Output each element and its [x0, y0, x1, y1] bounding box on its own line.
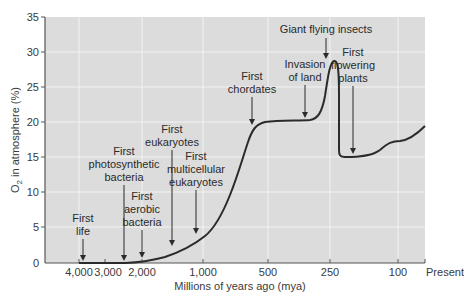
y-axis-title: O2 in atmosphere (%)	[9, 87, 24, 193]
svg-text:10: 10	[27, 186, 39, 198]
svg-text:2,000: 2,000	[128, 266, 156, 278]
oxygen-history-chart: 35 30 25 20 15 10 5 0 4,000 3,000 2,000 …	[0, 0, 464, 305]
svg-text:First: First	[241, 70, 262, 82]
svg-text:multicellular: multicellular	[167, 163, 225, 175]
svg-text:chordates: chordates	[228, 83, 277, 95]
svg-text:eukaryotes: eukaryotes	[169, 176, 223, 188]
svg-text:4,000: 4,000	[65, 266, 93, 278]
svg-text:of land: of land	[288, 71, 321, 83]
svg-text:100: 100	[389, 266, 407, 278]
svg-text:1,000: 1,000	[189, 266, 217, 278]
svg-text:flowering: flowering	[331, 59, 375, 71]
svg-text:0: 0	[33, 257, 39, 269]
svg-text:25: 25	[27, 81, 39, 93]
svg-text:bacteria: bacteria	[122, 216, 162, 228]
svg-text:First: First	[342, 46, 363, 58]
svg-text:First: First	[72, 212, 93, 224]
svg-text:5: 5	[33, 221, 39, 233]
x-tick-labels: 4,000 3,000 2,000 1,000 500 250 100 Pres…	[65, 266, 464, 278]
svg-text:20: 20	[27, 116, 39, 128]
svg-text:35: 35	[27, 11, 39, 23]
svg-text:First: First	[185, 150, 206, 162]
svg-text:bacteria: bacteria	[104, 171, 144, 183]
svg-text:3,000: 3,000	[94, 266, 122, 278]
svg-text:First: First	[161, 123, 182, 135]
svg-text:aerobic: aerobic	[124, 203, 161, 215]
svg-text:Present: Present	[426, 266, 464, 278]
svg-text:250: 250	[321, 266, 339, 278]
svg-text:photosynthetic: photosynthetic	[89, 158, 160, 170]
plot-area	[45, 17, 425, 263]
svg-text:Giant flying insects: Giant flying insects	[280, 23, 373, 35]
y-tick-labels: 35 30 25 20 15 10 5 0	[27, 11, 39, 269]
svg-text:30: 30	[27, 46, 39, 58]
svg-text:eukaryotes: eukaryotes	[145, 136, 199, 148]
svg-text:plants: plants	[338, 72, 368, 84]
svg-text:life: life	[76, 225, 90, 237]
svg-text:15: 15	[27, 151, 39, 163]
x-axis-title: Millions of years ago (mya)	[174, 280, 305, 292]
svg-text:First: First	[113, 145, 134, 157]
svg-text:Invasion: Invasion	[285, 58, 326, 70]
svg-text:500: 500	[259, 266, 277, 278]
svg-text:First: First	[131, 190, 152, 202]
